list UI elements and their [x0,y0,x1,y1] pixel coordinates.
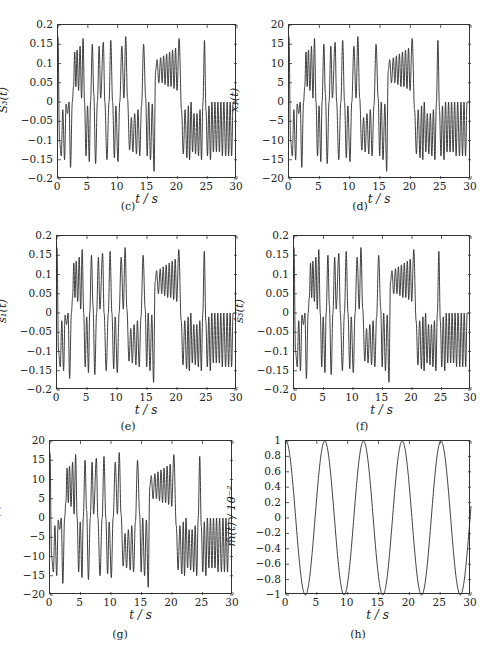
ytick-label: 0.1 [8,269,52,279]
ytick-label: 0 [9,96,53,106]
ytick-label: 0.6 [237,466,281,476]
xtick-label: 15 [370,392,394,402]
plot-area-d [288,24,470,178]
ytick-label: 5 [240,77,284,87]
xtick-label: 10 [340,392,364,402]
ytick-label: −0.1 [245,346,289,356]
ytick-label: 0 [1,512,45,522]
plot-line-f [294,236,471,390]
ytick-label: −0.2 [237,527,281,537]
ytick-label: 0.1 [245,269,289,279]
plot-line-h [286,441,471,595]
ytick-label: 0.15 [8,249,52,259]
ytick-label: 0.15 [9,38,53,48]
xtick-label: 25 [429,392,453,402]
plot-area-c [57,24,236,178]
y-axis-label: x₁(t) [227,40,241,160]
ytick-label: 15 [240,38,284,48]
ytick-label: −5 [240,115,284,125]
xtick-label: 20 [396,597,420,607]
xtick-label: 20 [159,597,183,607]
xtick-label: 5 [306,181,330,191]
x-axis-label: t / s [352,403,412,417]
ytick-label: 10 [1,474,45,484]
plot-area-f [293,235,470,389]
plot-area-h [285,440,470,594]
xtick-label: 15 [129,597,153,607]
xtick-label: 25 [427,597,451,607]
y-axis-label: m̂(t) / 10⁻² [224,456,238,576]
ytick-label: −0.1 [9,135,53,145]
xtick-label: 5 [75,181,99,191]
xtick-label: 0 [273,597,297,607]
ytick-label: −0.8 [237,574,281,584]
xtick-label: 10 [104,392,128,402]
xtick-label: 0 [281,392,305,402]
y-axis-label: ŝ₁(t) [0,251,9,371]
ytick-label: 20 [240,19,284,29]
xtick-label: 5 [74,392,98,402]
xtick-label: 15 [135,181,159,191]
x-axis-label: t / s [111,608,171,622]
xtick-label: 0 [276,181,300,191]
xtick-label: 20 [164,392,188,402]
xtick-label: 25 [194,181,218,191]
plot-line-g [50,441,233,595]
ytick-label: 5 [1,493,45,503]
ytick-label: 0.15 [245,249,289,259]
subplot-caption: (d) [340,200,380,213]
xtick-label: 0 [37,597,61,607]
ytick-label: −0.05 [245,326,289,336]
ytick-label: 0 [8,307,52,317]
subplot-caption: (g) [100,628,140,641]
plot-line-d [289,25,471,179]
ytick-label: 0.05 [245,288,289,298]
ytick-label: −10 [240,135,284,145]
xtick-label: 25 [428,181,452,191]
ytick-label: −15 [240,154,284,164]
subplot-caption: (f) [342,420,382,433]
ytick-label: 0.2 [245,230,289,240]
ytick-label: −0.1 [8,346,52,356]
xtick-label: 5 [304,597,328,607]
ytick-label: −15 [1,570,45,580]
ytick-label: 20 [1,435,45,445]
xtick-label: 20 [397,181,421,191]
ytick-label: 0.05 [8,288,52,298]
xtick-label: 10 [105,181,129,191]
ytick-label: −10 [1,551,45,561]
xtick-label: 10 [335,597,359,607]
xtick-label: 10 [337,181,361,191]
x-axis-label: t / s [348,608,408,622]
subplot-caption: (h) [338,628,378,641]
ytick-label: 10 [240,58,284,68]
xtick-label: 0 [44,392,68,402]
xtick-label: 15 [366,597,390,607]
ytick-label: −0.05 [8,326,52,336]
ytick-label: 0.1 [9,58,53,68]
xtick-label: 30 [458,181,482,191]
ytick-label: −0.15 [8,365,52,375]
xtick-label: 5 [68,597,92,607]
ytick-label: 0.4 [237,481,281,491]
ytick-label: −0.4 [237,543,281,553]
plot-line-c [58,25,237,179]
y-axis-label: ŝ₆(t) [0,456,2,576]
x-axis-label: t / s [116,403,176,417]
xtick-label: 30 [458,392,482,402]
ytick-label: −0.15 [245,365,289,375]
xtick-label: 30 [458,597,482,607]
ytick-label: −0.6 [237,558,281,568]
ytick-label: 0.2 [8,230,52,240]
xtick-label: 10 [98,597,122,607]
subplot-caption: (e) [108,420,148,433]
xtick-label: 20 [399,392,423,402]
ytick-label: −0.05 [9,115,53,125]
ytick-label: 0 [240,96,284,106]
y-axis-label: S₃(t) [0,40,10,160]
plot-area-g [49,440,232,594]
ytick-label: 0.2 [9,19,53,29]
plot-area-e [56,235,236,389]
plot-line-e [57,236,237,390]
subplot-caption: (c) [108,200,148,213]
